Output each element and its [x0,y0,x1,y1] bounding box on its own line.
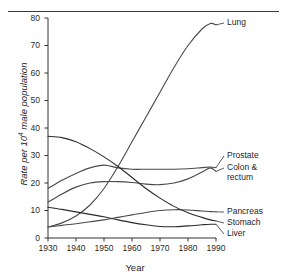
series-label-prostate: Prostate [227,151,259,161]
series-label-lung: Lung [227,18,246,28]
leader-line-liver [216,224,224,234]
series-line-lung [48,23,216,227]
y-tick-label: 20 [20,179,40,188]
y-tick-label: 40 [20,124,40,133]
y-tick-label: 80 [20,14,40,23]
series-label-text: Stomach [227,218,261,228]
y-tick-label: 60 [20,69,40,78]
x-tick-label: 1930 [33,244,63,253]
series-label-text: Prostate [227,151,259,161]
x-tick-label: 1980 [173,244,203,253]
series-label-text: rectum [227,173,257,183]
y-tick-label: 0 [20,234,40,243]
series-label-stomach: Stomach [227,218,261,228]
axis-spines [48,18,216,238]
x-tick-label: 1950 [89,244,119,253]
series-label-text: Pancreas [227,207,263,217]
y-tick-label: 50 [20,96,40,105]
series-line-stomach [48,136,216,221]
x-tick-label: 1970 [145,244,175,253]
leader-line-colon [216,168,224,171]
y-axis-label-exponent: 4 [17,132,24,136]
figure-container: Rate per 104 male population Year 010203… [0,0,287,276]
series-label-text: Liver [227,229,245,239]
series-label-liver: Liver [227,229,245,239]
series-label-pancreas: Pancreas [227,207,263,217]
x-tick-label: 1940 [61,244,91,253]
series-label-colon: Colon &rectum [227,163,257,182]
series-line-colon-rectum [48,168,216,202]
x-tick-label: 1990 [201,244,231,253]
leader-line-prostate [216,156,224,168]
series-line-pancreas [48,210,216,227]
leader-line-stomach [216,221,224,223]
y-tick-label: 70 [20,41,40,50]
y-tick-label: 30 [20,151,40,160]
x-tick-label: 1960 [117,244,147,253]
leader-line-lung [216,23,224,25]
x-axis-label: Year [50,262,220,273]
series-label-text: Lung [227,18,246,28]
y-tick-label: 10 [20,206,40,215]
